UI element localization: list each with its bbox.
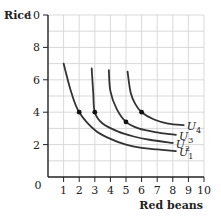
x-tick-label: 5 [123,184,130,197]
x-tick-label: 2 [76,184,83,197]
labels: 123456789102468100RiceRed beansU1U2U3U4 [4,9,211,212]
x-tick-label: 7 [154,184,161,197]
origin-label: 0 [35,179,42,192]
point-u3 [124,120,129,125]
label-u4: U4 [187,120,201,135]
point-u2 [92,110,97,115]
x-tick-label: 10 [197,184,211,197]
point-u1 [77,110,82,115]
label-subscript: 3 [188,136,193,145]
y-tick-label: 2 [33,139,40,152]
x-tick-label: 6 [138,184,145,197]
indifference-curve-chart: 123456789102468100RiceRed beansU1U2U3U4 [0,0,221,223]
x-tick-label: 1 [60,184,67,197]
y-tick-label: 8 [33,41,40,54]
indifference-curves [64,64,184,151]
curve-u1 [64,64,176,151]
x-axis-title: Red beans [139,199,203,212]
y-tick-label: 4 [33,106,40,119]
label-subscript: 1 [188,152,193,161]
label-subscript: 4 [196,126,201,135]
x-tick-label: 9 [185,184,192,197]
y-axis-title: Rice [4,9,31,22]
x-tick-label: 8 [169,184,176,197]
label-subscript: 2 [185,144,190,153]
point-u4 [139,110,144,115]
x-tick-label: 3 [91,184,98,197]
y-tick-label: 6 [33,74,40,87]
x-tick-label: 4 [107,184,114,197]
